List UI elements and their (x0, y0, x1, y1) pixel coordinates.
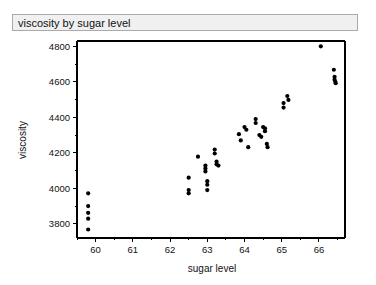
data-point (254, 117, 258, 121)
data-point (86, 217, 90, 221)
data-point (263, 129, 267, 133)
x-tick-label: 63 (202, 244, 213, 255)
data-point (213, 151, 217, 155)
data-point (281, 101, 285, 105)
data-point (285, 94, 289, 98)
x-axis-title: sugar level (188, 263, 236, 274)
data-point (334, 81, 338, 85)
data-point (205, 183, 209, 187)
data-points-group (86, 44, 338, 231)
x-tick-label: 65 (276, 244, 287, 255)
scatter-plot-figure: 38004000420044004600480060616263646566 s… (0, 0, 376, 285)
data-point (246, 145, 250, 149)
y-tick-label: 4200 (49, 147, 70, 158)
x-tick-label: 64 (239, 244, 250, 255)
x-tick-label: 60 (90, 244, 101, 255)
plot-canvas: 38004000420044004600480060616263646566 s… (0, 0, 376, 285)
data-point (319, 44, 323, 48)
data-point (237, 132, 241, 136)
data-point (86, 227, 90, 231)
data-point (205, 188, 209, 192)
data-point (187, 191, 191, 195)
x-tick-label: 62 (165, 244, 176, 255)
y-tick-label: 4400 (49, 112, 70, 123)
x-tick-label: 66 (314, 244, 325, 255)
y-tick-label: 3800 (49, 218, 70, 229)
data-point (244, 128, 248, 132)
data-point (259, 135, 263, 139)
data-point (86, 204, 90, 208)
y-axis-title: viscosity (17, 121, 28, 159)
data-point (213, 148, 217, 152)
data-point (86, 191, 90, 195)
ticks-group (73, 46, 338, 242)
data-point (187, 176, 191, 180)
axes-group (77, 41, 345, 238)
data-point (203, 169, 207, 173)
x-tick-label: 61 (128, 244, 139, 255)
data-point (254, 121, 258, 125)
data-point (239, 138, 243, 142)
tick-labels-group: 38004000420044004600480060616263646566 (49, 41, 324, 255)
data-point (332, 68, 336, 72)
y-tick-label: 4600 (49, 76, 70, 87)
data-point (281, 105, 285, 109)
y-tick-label: 4000 (49, 183, 70, 194)
data-point (286, 98, 290, 102)
data-point (86, 211, 90, 215)
data-point (196, 155, 200, 159)
y-tick-label: 4800 (49, 41, 70, 52)
data-point (216, 163, 220, 167)
data-point (265, 145, 269, 149)
